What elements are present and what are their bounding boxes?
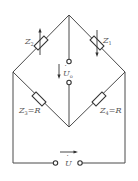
label-z2: Z2	[24, 37, 34, 47]
label-z3: Z3=R	[18, 106, 40, 116]
output-arrow-down-icon	[57, 64, 60, 79]
source-terminal-left	[53, 161, 57, 165]
label-output-voltage: Uo	[63, 69, 73, 79]
source-terminal-right	[78, 161, 82, 165]
source-phasor-dot: ·	[67, 152, 69, 160]
impedance-z3	[32, 92, 46, 106]
bridge-circuit-diagram: Z2 Z1 Z3=R Z4=R Uo · U ·	[0, 0, 138, 181]
source-arrow-right-icon	[60, 150, 78, 153]
label-source-voltage: U	[65, 159, 72, 168]
output-terminal-top	[67, 59, 71, 63]
label-z4: Z4=R	[99, 106, 121, 116]
output-phasor-dot: ·	[65, 62, 67, 70]
impedance-z4	[92, 92, 106, 106]
impedance-z2	[34, 36, 48, 50]
output-terminal-bottom	[67, 80, 71, 84]
label-z1: Z1	[102, 36, 112, 46]
